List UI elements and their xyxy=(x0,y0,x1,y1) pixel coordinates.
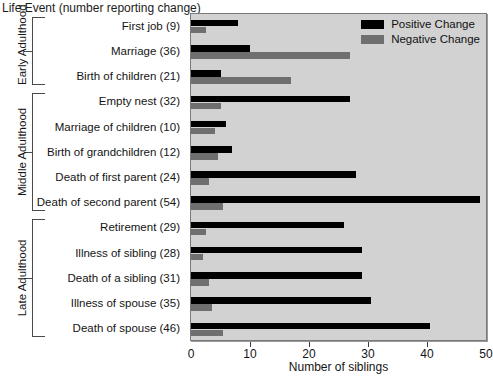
category-label: Retirement (29) xyxy=(100,221,180,233)
group-bracket xyxy=(32,219,45,337)
bar-positive xyxy=(191,247,362,254)
category-label: Illness of spouse (35) xyxy=(71,297,180,309)
bar-positive xyxy=(191,70,221,77)
bar-negative xyxy=(191,229,206,236)
legend-label-positive: Positive Change xyxy=(391,18,475,30)
bar-positive xyxy=(191,272,362,279)
legend-item-negative: Negative Change xyxy=(361,33,480,45)
legend-label-negative: Negative Change xyxy=(391,33,480,45)
category-label: Death of second parent (54) xyxy=(37,196,180,208)
negative-swatch-icon xyxy=(361,35,384,44)
category-label: Marriage (36) xyxy=(111,45,180,57)
bar-positive xyxy=(191,121,226,128)
group-label: Late Adulthood xyxy=(16,219,29,337)
category-label: Empty nest (32) xyxy=(99,95,180,107)
plot-area: Positive Change Negative Change xyxy=(190,13,487,341)
positive-swatch-icon xyxy=(361,20,384,29)
category-label: Death of a sibling (31) xyxy=(67,272,180,284)
bar-positive xyxy=(191,323,430,330)
group-bracket xyxy=(32,17,45,85)
bar-negative xyxy=(191,128,215,135)
category-label: Death of first parent (24) xyxy=(55,171,180,183)
category-label: Illness of sibling (28) xyxy=(75,247,180,259)
bar-negative xyxy=(191,27,206,34)
category-label: Death of spouse (46) xyxy=(73,322,180,334)
category-label: First job (9) xyxy=(122,20,180,32)
bar-positive xyxy=(191,146,232,153)
bar-positive xyxy=(191,222,344,229)
bar-negative xyxy=(191,103,221,110)
bars-layer xyxy=(191,14,486,340)
bar-negative xyxy=(191,279,209,286)
category-label: Birth of children (21) xyxy=(76,70,180,82)
x-axis: 01020304050 xyxy=(190,342,487,362)
bar-negative xyxy=(191,304,212,311)
bar-negative xyxy=(191,178,209,185)
category-label: Birth of grandchildren (12) xyxy=(47,146,180,158)
bar-negative xyxy=(191,203,223,210)
bar-negative xyxy=(191,77,291,84)
bar-positive xyxy=(191,20,238,27)
bar-negative xyxy=(191,52,350,59)
group-label: Early Adulthood xyxy=(16,17,29,85)
group-label: Middle Adulthood xyxy=(16,93,29,211)
bar-positive xyxy=(191,45,250,52)
legend-item-positive: Positive Change xyxy=(361,18,480,30)
bar-negative xyxy=(191,153,218,160)
category-label: Marriage of children (10) xyxy=(55,121,180,133)
bar-positive xyxy=(191,96,350,103)
group-bracket xyxy=(32,93,45,211)
bar-positive xyxy=(191,297,371,304)
bar-negative xyxy=(191,330,223,337)
bar-negative xyxy=(191,254,203,261)
legend: Positive Change Negative Change xyxy=(361,18,480,48)
bar-positive xyxy=(191,171,356,178)
bar-positive xyxy=(191,196,480,203)
x-axis-title: Number of siblings xyxy=(190,360,487,374)
